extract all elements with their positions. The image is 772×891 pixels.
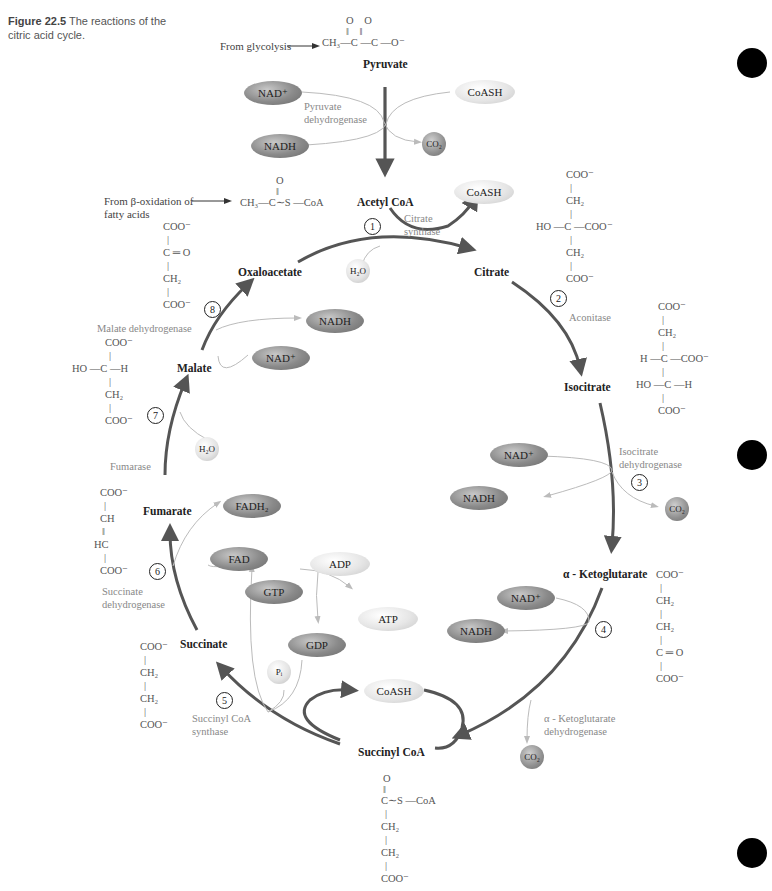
gtp-pill: GTP: [245, 580, 303, 604]
from-glycolysis-label: From glycolysis: [220, 40, 291, 52]
enzyme-malate-dehydrogenase: Malate dehydrogenase: [97, 322, 192, 335]
nadh-pill: NADH: [447, 619, 505, 643]
step-2-marker: 2: [550, 290, 567, 307]
nad-plus-pill: NAD⁺: [252, 346, 310, 370]
alpha-ketoglutarate-structure: COO⁻ | CH₂ | CH₂ | C ═ O | COO⁻: [656, 568, 684, 685]
malate-structure: COO⁻ | HO —C —H | CH₂ | COO⁻: [72, 336, 133, 427]
nadh-pill: NADH: [251, 134, 309, 158]
enzyme-succinyl-coa-synthase: Succinyl CoAsynthase: [192, 712, 251, 738]
compound-succinate: Succinate: [180, 638, 227, 650]
enzyme-aconitase: Aconitase: [569, 311, 611, 324]
enzyme-citrate-synthase: Citratesynthase: [404, 212, 440, 238]
co2-ball: CO₂: [520, 745, 544, 769]
nadh-pill: NADH: [306, 309, 364, 333]
step-7-marker: 7: [147, 407, 164, 424]
compound-citrate: Citrate: [474, 266, 509, 278]
enzyme-fumarase: Fumarase: [110, 460, 151, 473]
step-1-marker: 1: [364, 218, 381, 235]
succinyl-coa-structure: O ‖ C∼S —CoA | CH₂ | CH₂ | COO⁻: [381, 772, 436, 885]
isocitrate-structure: COO⁻ | CH₂ | H —C —COO⁻ | HO —C —H | COO…: [636, 300, 709, 417]
coash-pill: CoASH: [455, 80, 515, 104]
atp-pill: ATP: [358, 607, 418, 631]
nad-plus-pill: NAD⁺: [490, 443, 548, 467]
succinate-structure: COO⁻ | CH₂ | CH₂ | COO⁻: [140, 640, 168, 731]
nad-plus-pill: NAD⁺: [244, 81, 302, 105]
pi-ball: Pᵢ: [267, 660, 291, 684]
step-6-marker: 6: [149, 563, 166, 580]
compound-malate: Malate: [177, 362, 211, 374]
compound-isocitrate: Isocitrate: [564, 381, 611, 393]
enzyme-isocitrate-dehydrogenase: Isocitratedehydrogenase: [619, 445, 682, 471]
h2o-ball: H₂O: [346, 259, 370, 283]
enzyme-succinate-dehydrogenase: Succinatedehydrogenase: [102, 585, 165, 611]
citrate-structure: COO⁻ | CH₂ | HO —C —COO⁻ | CH₂ | COO⁻: [536, 168, 613, 285]
from-beta-oxidation-label: From β-oxidation offatty acids: [104, 195, 193, 221]
compound-acetyl-coa: Acetyl CoA: [357, 196, 414, 208]
enzyme-alpha-ketoglutarate-dehydrogenase: α - Ketoglutaratedehydrogenase: [544, 712, 615, 738]
nadh-pill: NADH: [450, 486, 508, 510]
compound-alpha-ketoglutarate: α - Ketoglutarate: [563, 568, 647, 580]
h2o-ball: H₂O: [195, 437, 219, 461]
nad-plus-pill: NAD⁺: [497, 586, 555, 610]
coash-pill: CoASH: [364, 679, 424, 703]
co2-ball: CO₂: [422, 132, 446, 156]
oxaloacetate-structure: COO⁻ | C ═ O | CH₂ | COO⁻: [163, 220, 191, 311]
coash-pill: CoASH: [454, 180, 514, 204]
fumarate-structure: COO⁻ | CH ‖ HC | COO⁻: [94, 486, 128, 577]
pyruvate-structure: O O ‖ ‖ CH₃—C —C —O⁻: [322, 14, 405, 49]
step-8-marker: 8: [204, 301, 221, 318]
fadh2-pill: FADH₂: [223, 494, 281, 518]
acetyl-coa-structure: O ‖ CH₃—C∼S —CoA: [240, 174, 324, 209]
fad-pill: FAD: [210, 547, 268, 571]
compound-succinyl-coa: Succinyl CoA: [358, 746, 425, 758]
compound-pyruvate: Pyruvate: [363, 58, 408, 70]
step-5-marker: 5: [216, 692, 233, 709]
enzyme-pyruvate-dehydrogenase: Pyruvatedehydrogenase: [304, 100, 367, 126]
step-3-marker: 3: [631, 474, 648, 491]
adp-pill: ADP: [310, 552, 370, 576]
co2-ball: CO₂: [665, 497, 689, 521]
gdp-pill: GDP: [288, 633, 346, 657]
compound-oxaloacetate: Oxaloacetate: [238, 266, 302, 278]
step-4-marker: 4: [595, 621, 612, 638]
compound-fumarate: Fumarate: [143, 505, 192, 517]
